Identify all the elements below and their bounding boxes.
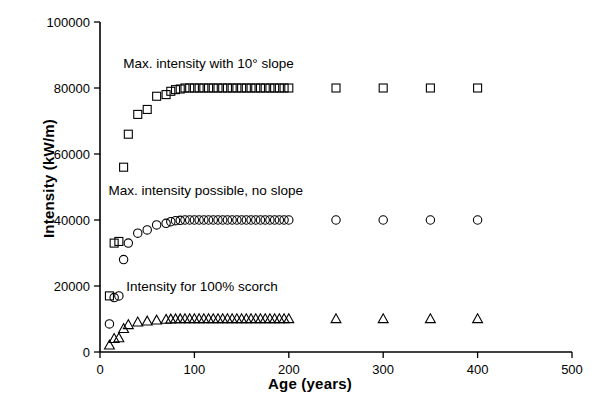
y-axis-title: Intensity (kW/m)	[40, 69, 57, 289]
data-point-square	[153, 92, 161, 100]
data-point-circle	[379, 216, 387, 224]
y-tick-label: 100000	[47, 15, 90, 30]
y-tick-label: 60000	[54, 147, 90, 162]
data-point-square	[266, 84, 274, 92]
data-point-circle	[162, 219, 170, 227]
data-point-square	[214, 84, 222, 92]
data-point-square	[219, 84, 227, 92]
series-annotation: Intensity for 100% scorch	[126, 279, 278, 294]
scatter-plot: 0200004000060000800001000000100200300400…	[0, 0, 598, 404]
data-point-square	[252, 84, 260, 92]
series-2	[105, 216, 482, 328]
data-point-triangle	[425, 314, 435, 323]
data-point-triangle	[142, 316, 152, 325]
data-point-square	[205, 84, 213, 92]
data-point-triangle	[133, 317, 143, 326]
data-point-triangle	[473, 314, 483, 323]
data-point-square	[242, 84, 250, 92]
data-point-square	[228, 84, 236, 92]
data-point-square	[233, 84, 241, 92]
x-tick-label: 0	[96, 362, 103, 377]
data-point-square	[271, 84, 279, 92]
data-point-circle	[124, 239, 132, 247]
data-point-circle	[473, 216, 481, 224]
data-point-triangle	[378, 314, 388, 323]
data-point-circle	[105, 320, 113, 328]
y-tick-label: 20000	[54, 279, 90, 294]
data-point-square	[247, 84, 255, 92]
series-annotation: Max. intensity possible, no slope	[109, 183, 303, 198]
data-point-square	[105, 292, 113, 300]
data-point-circle	[134, 229, 142, 237]
data-point-square	[474, 84, 482, 92]
data-point-circle	[110, 293, 118, 301]
data-point-square	[209, 84, 217, 92]
data-point-square	[332, 84, 340, 92]
y-tick-label: 0	[83, 345, 90, 360]
x-tick-label: 400	[467, 362, 489, 377]
data-point-square	[134, 110, 142, 118]
data-point-circle	[332, 216, 340, 224]
data-point-circle	[426, 216, 434, 224]
data-point-square	[285, 84, 293, 92]
data-point-square	[186, 84, 194, 92]
data-point-square	[120, 163, 128, 171]
data-point-triangle	[152, 315, 162, 324]
data-point-square	[238, 84, 246, 92]
data-point-square	[124, 130, 132, 138]
chart-container: 0200004000060000800001000000100200300400…	[0, 0, 598, 404]
data-point-square	[426, 84, 434, 92]
series-annotation: Max. intensity with 10° slope	[123, 56, 293, 71]
data-point-triangle	[114, 333, 124, 342]
x-axis-title: Age (years)	[180, 375, 440, 392]
data-point-square	[379, 84, 387, 92]
data-point-circle	[115, 292, 123, 300]
data-point-triangle	[331, 314, 341, 323]
data-point-square	[190, 84, 198, 92]
data-point-circle	[143, 226, 151, 234]
data-point-square	[280, 84, 288, 92]
series-3	[105, 314, 483, 349]
y-tick-label: 80000	[54, 81, 90, 96]
data-point-square	[256, 84, 264, 92]
data-point-square	[143, 105, 151, 113]
data-point-square	[275, 84, 283, 92]
data-point-circle	[119, 255, 127, 263]
data-point-circle	[152, 221, 160, 229]
data-point-square	[200, 84, 208, 92]
data-point-triangle	[123, 320, 133, 329]
data-point-square	[195, 84, 203, 92]
data-point-square	[223, 84, 231, 92]
y-tick-label: 40000	[54, 213, 90, 228]
data-point-square	[261, 84, 269, 92]
data-point-square	[162, 91, 170, 99]
x-tick-label: 500	[561, 362, 583, 377]
